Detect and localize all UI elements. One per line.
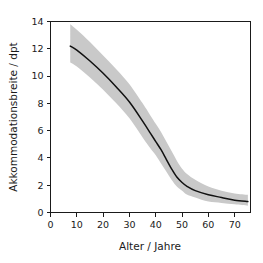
y-tick-label: 12 — [31, 43, 43, 54]
confidence-band-group — [70, 24, 248, 205]
y-tick-label: 14 — [31, 16, 43, 27]
x-tick-label: 20 — [97, 219, 109, 230]
y-tick-label: 6 — [37, 125, 43, 136]
x-tick-label: 0 — [47, 219, 53, 230]
x-tick-label: 60 — [202, 219, 214, 230]
y-axis-ticks: 02468101214 — [31, 16, 50, 218]
y-tick-label: 8 — [37, 98, 43, 109]
x-tick-label: 70 — [229, 219, 241, 230]
y-tick-label: 0 — [37, 207, 43, 218]
accommodation-amplitude-chart: 010203040506070 02468101214 Alter / Jahr… — [0, 0, 263, 263]
x-tick-label: 50 — [176, 219, 188, 230]
x-axis-title: Alter / Jahre — [119, 240, 181, 252]
y-tick-label: 2 — [37, 180, 43, 191]
confidence-band — [70, 24, 248, 205]
y-tick-label: 4 — [37, 152, 43, 163]
x-tick-label: 30 — [123, 219, 135, 230]
chart-canvas: 010203040506070 02468101214 Alter / Jahr… — [0, 0, 263, 263]
x-tick-label: 10 — [71, 219, 83, 230]
x-tick-label: 40 — [150, 219, 162, 230]
y-axis-title: Akkommodationsbreite / dpt — [7, 42, 19, 191]
x-axis-ticks: 010203040506070 — [47, 213, 240, 230]
y-tick-label: 10 — [31, 70, 43, 81]
